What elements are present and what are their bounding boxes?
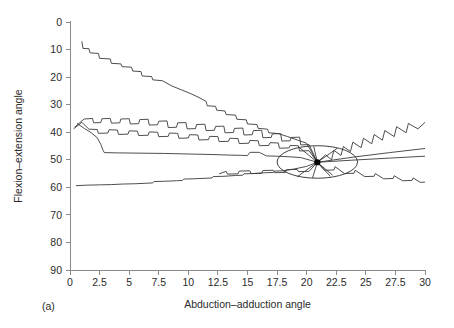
y-tick-label: 70 xyxy=(50,209,62,221)
labels-group: 010203040506070809002.557.51012.51517.52… xyxy=(12,16,431,312)
x-tick-label: 12.5 xyxy=(208,276,229,288)
x-tick-label: 27.5 xyxy=(385,276,406,288)
figure-panel-a: 010203040506070809002.557.51012.51517.52… xyxy=(0,0,454,328)
series-line-trajectory-4-plateau xyxy=(77,123,317,162)
chart-svg: 010203040506070809002.557.51012.51517.52… xyxy=(0,0,454,328)
series-line-exit-4-sawtooth-down xyxy=(317,162,425,182)
series-group xyxy=(74,41,425,185)
x-tick-label: 5 xyxy=(126,276,132,288)
y-tick-label: 20 xyxy=(50,71,62,83)
panel-label: (a) xyxy=(42,300,55,312)
series-line-trajectory-5-baseline xyxy=(76,162,317,185)
y-tick-label: 60 xyxy=(50,181,62,193)
y-tick-label: 50 xyxy=(50,153,62,165)
y-axis-title: Flexion–extension angle xyxy=(12,89,24,202)
x-tick-label: 2.5 xyxy=(92,276,107,288)
y-tick-label: 10 xyxy=(50,43,62,55)
series-line-trajectory-2-sawtooth-upper xyxy=(75,118,318,162)
series-line-entry-radial-down-a xyxy=(297,162,317,177)
x-tick-label: 0 xyxy=(67,276,73,288)
annotation-group xyxy=(277,146,357,179)
x-tick-label: 10 xyxy=(182,276,194,288)
series-line-exit-1-sawtooth-up xyxy=(317,122,425,162)
series-line-exit-3-straight-middle xyxy=(317,156,425,162)
convergence-point xyxy=(314,159,320,165)
x-tick-label: 22.5 xyxy=(326,276,347,288)
y-tick-label: 90 xyxy=(50,264,62,276)
x-tick-label: 25 xyxy=(360,276,372,288)
y-tick-label: 40 xyxy=(50,126,62,138)
axes-group xyxy=(66,21,427,275)
y-tick-label: 0 xyxy=(56,16,62,28)
x-tick-label: 30 xyxy=(419,276,431,288)
y-tick-label: 30 xyxy=(50,98,62,110)
x-tick-label: 20 xyxy=(301,276,313,288)
x-tick-label: 7.5 xyxy=(151,276,166,288)
series-line-trajectory-1 xyxy=(82,41,317,162)
x-tick-label: 15 xyxy=(242,276,254,288)
y-tick-label: 80 xyxy=(50,236,62,248)
x-tick-label: 17.5 xyxy=(267,276,288,288)
x-axis-title: Abduction–adduction angle xyxy=(184,298,311,310)
